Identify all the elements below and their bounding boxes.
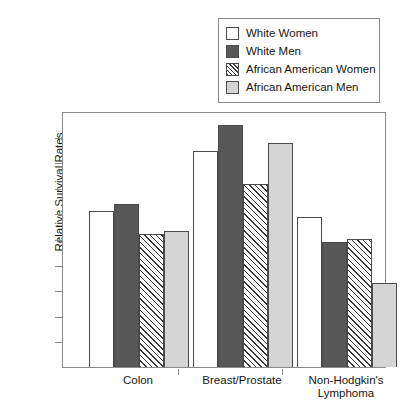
- y-tick-mark: [55, 317, 62, 318]
- legend-label: African American Men: [246, 81, 359, 94]
- y-tick-mark: [55, 291, 62, 292]
- y-tick-mark: [55, 240, 62, 241]
- legend-swatch-african-american-men-icon: [226, 81, 239, 94]
- y-tick-mark: [55, 163, 62, 164]
- legend-label: White Women: [246, 27, 318, 40]
- x-axis-label: Non-Hodgkin's Lymphoma: [286, 374, 404, 400]
- legend-swatch-african-american-women-icon: [226, 63, 239, 76]
- x-axis-separator-tick: [282, 369, 283, 375]
- y-tick-mark: [55, 342, 62, 343]
- bar: [322, 242, 347, 367]
- x-axis-label: Breast/Prostate: [182, 374, 302, 387]
- legend-item: African American Women: [226, 60, 372, 78]
- chart-legend: White Women White Men African American W…: [218, 18, 380, 103]
- bar: [114, 204, 139, 367]
- bar: [89, 211, 114, 367]
- bar-group: [89, 113, 189, 367]
- bar: [139, 234, 164, 367]
- legend-item: White Women: [226, 24, 372, 42]
- bar: [243, 184, 268, 367]
- x-axis-label: Colon: [78, 374, 198, 387]
- bar-group: [297, 113, 397, 367]
- legend-item: White Men: [226, 42, 372, 60]
- bar: [218, 125, 243, 367]
- legend-swatch-white-men-icon: [226, 45, 239, 58]
- plot-area: [62, 112, 386, 368]
- bars-container: [63, 113, 385, 367]
- y-tick-mark: [55, 214, 62, 215]
- y-tick-mark: [55, 189, 62, 190]
- y-tick-mark: [55, 266, 62, 267]
- bar: [193, 151, 218, 367]
- bar: [164, 231, 189, 367]
- legend-label: White Men: [246, 45, 301, 58]
- bar: [268, 143, 293, 367]
- legend-label: African American Women: [246, 63, 376, 76]
- bar-group: [193, 113, 293, 367]
- bar: [347, 239, 372, 367]
- legend-swatch-white-women-icon: [226, 27, 239, 40]
- y-tick-mark: [55, 138, 62, 139]
- bar: [297, 217, 322, 367]
- x-axis-separator-tick: [178, 369, 179, 375]
- legend-item: African American Men: [226, 78, 372, 96]
- bar: [372, 283, 397, 367]
